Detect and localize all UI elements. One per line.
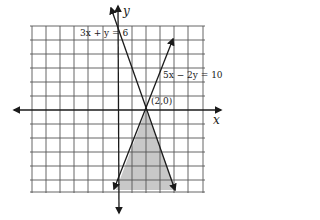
y-axis-label: y <box>123 5 130 17</box>
equation-label-5x-minus-2y: 5x − 2y = 10 <box>163 71 223 80</box>
x-axis-label: x <box>213 114 220 126</box>
equation-label-3x-plus-y: 3x + y = 6 <box>80 29 128 38</box>
intersection-point-label: (2,0) <box>151 97 172 106</box>
